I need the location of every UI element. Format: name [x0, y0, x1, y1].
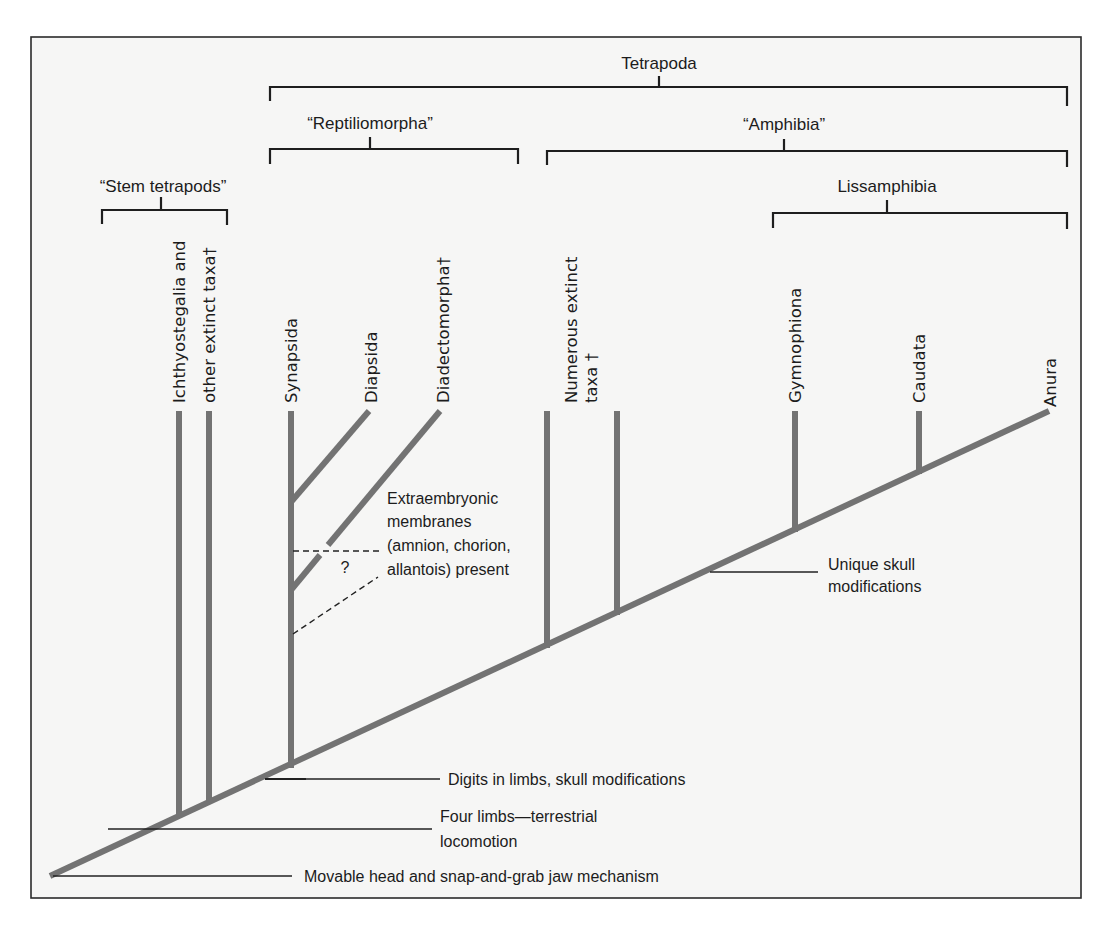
taxon-anura: Anura: [1041, 358, 1060, 407]
svg-text:Extraembryonic: Extraembryonic: [387, 490, 498, 507]
group-label-amphibia: “Amphibia”: [743, 115, 826, 134]
svg-text:Unique skull: Unique skull: [828, 556, 915, 573]
taxon-numerous-extinct: Numerous extinct: [562, 256, 581, 403]
taxon-gymnophiona: Gymnophiona: [786, 288, 805, 403]
taxon-caudata: Caudata: [910, 334, 929, 403]
uncertain-marker: ?: [341, 559, 350, 576]
svg-text:modifications: modifications: [828, 578, 921, 595]
taxon-synapsida: Synapsida: [282, 318, 301, 403]
svg-text:(amnion, chorion,: (amnion, chorion,: [387, 537, 511, 554]
svg-text:Digits in limbs, skull modific: Digits in limbs, skull modifications: [448, 771, 685, 788]
group-label-tetrapoda: Tetrapoda: [621, 54, 697, 73]
svg-text:allantois) present: allantois) present: [387, 561, 509, 578]
group-label-reptiliomorpha: “Reptiliomorpha”: [307, 114, 433, 133]
taxon-numerous-extinct-line2: taxa †: [582, 353, 601, 403]
svg-text:Four limbs—terrestrial: Four limbs—terrestrial: [440, 808, 597, 825]
taxon-diadectomorpha: Diadectomorpha†: [434, 257, 453, 403]
taxon-diapsida: Diapsida: [362, 331, 381, 403]
cladogram-figure: Tetrapoda “Reptiliomorpha” “Amphibia” “S…: [0, 0, 1111, 935]
group-label-stem-tetrapods: “Stem tetrapods”: [100, 177, 227, 196]
taxon-ichthyostegalia: Ichthyostegalia and: [170, 240, 189, 403]
svg-text:Movable head and snap-and-grab: Movable head and snap-and-grab jaw mecha…: [304, 868, 659, 885]
group-label-lissamphibia: Lissamphibia: [837, 177, 937, 196]
svg-text:membranes: membranes: [387, 513, 471, 530]
svg-text:locomotion: locomotion: [440, 833, 517, 850]
taxon-other-extinct: other extinct taxa†: [200, 247, 219, 403]
